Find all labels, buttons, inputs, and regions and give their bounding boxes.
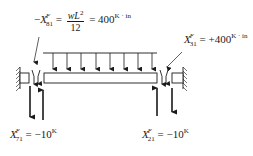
equals-sign: = bbox=[89, 13, 95, 25]
exponent: 2 bbox=[80, 9, 84, 17]
label-right-fixed-end-moment: XF31 = +400K · in bbox=[184, 33, 248, 48]
subscript: 71 bbox=[16, 135, 23, 143]
left-shear-arrows bbox=[30, 86, 43, 120]
left-fixed-support bbox=[16, 67, 29, 91]
label-left-shear-force: XF71 = −10K bbox=[10, 128, 57, 143]
superscript: F bbox=[148, 127, 152, 134]
subscript: 81 bbox=[46, 20, 53, 28]
unit: K bbox=[52, 127, 57, 135]
beam bbox=[44, 73, 157, 83]
label-right-shear-force: XF21 = −10K bbox=[142, 128, 189, 143]
denominator: 12 bbox=[67, 22, 85, 33]
left-moment-arrows bbox=[32, 70, 40, 84]
right-leader-line bbox=[167, 52, 182, 67]
equals-sign: = bbox=[25, 128, 31, 140]
equals-sign: = bbox=[56, 13, 62, 25]
fraction-wl2-over-12: wL2 12 bbox=[67, 8, 85, 33]
left-leader-line bbox=[34, 37, 39, 62]
equals-sign: = bbox=[157, 128, 163, 140]
distributed-load bbox=[43, 53, 157, 69]
moment-value: +400 bbox=[208, 33, 231, 45]
force-value: −10 bbox=[166, 128, 183, 140]
superscript: F bbox=[190, 32, 194, 39]
subscript: 21 bbox=[148, 135, 155, 143]
moment-value: 400 bbox=[98, 13, 115, 25]
unit: K bbox=[184, 127, 189, 135]
label-left-fixed-end-moment: −XF81 = wL2 12 = 400K · in bbox=[34, 8, 131, 33]
equals-sign: = bbox=[199, 33, 205, 45]
unit: K · in bbox=[231, 32, 247, 40]
unit: K · in bbox=[115, 12, 131, 20]
right-fixed-support bbox=[172, 67, 187, 91]
force-value: −10 bbox=[34, 128, 51, 140]
superscript: F bbox=[46, 12, 50, 19]
right-moment-arrows bbox=[160, 70, 168, 84]
right-shear-arrows bbox=[157, 88, 172, 116]
subscript: 31 bbox=[190, 40, 197, 48]
superscript: F bbox=[16, 127, 20, 134]
